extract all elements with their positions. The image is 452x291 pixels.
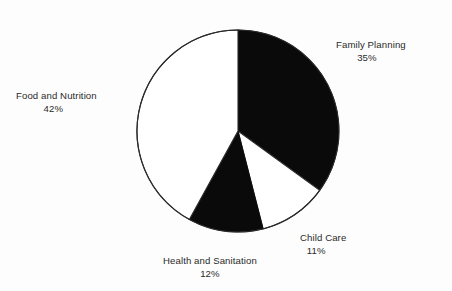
pie-label-child-care-value: 11% xyxy=(300,244,346,257)
pie-label-family-planning-value: 35% xyxy=(336,51,406,64)
pie-label-food-and-nutrition-value: 42% xyxy=(16,102,97,115)
pie-label-food-and-nutrition: Food and Nutrition 42% xyxy=(16,89,97,115)
pie-label-food-and-nutrition-name: Food and Nutrition xyxy=(16,89,97,102)
pie-label-family-planning-name: Family Planning xyxy=(336,38,406,51)
pie-chart: Family Planning 35% Food and Nutrition 4… xyxy=(0,0,452,291)
pie-label-child-care-name: Child Care xyxy=(300,231,346,244)
pie-label-child-care: Child Care 11% xyxy=(300,231,346,257)
pie-label-family-planning: Family Planning 35% xyxy=(336,38,406,64)
pie-label-health-and-sanitation: Health and Sanitation 12% xyxy=(163,254,257,280)
pie-label-health-and-sanitation-name: Health and Sanitation xyxy=(163,254,257,267)
pie-label-health-and-sanitation-value: 12% xyxy=(163,267,257,280)
